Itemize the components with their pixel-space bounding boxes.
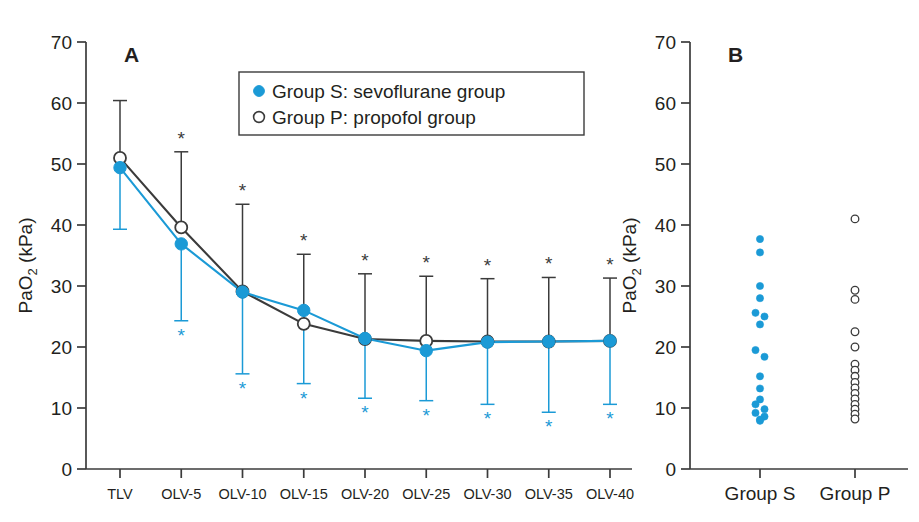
panel-a-x-tick-label: OLV-15 xyxy=(280,486,328,502)
panel-a-errorbar-group-p xyxy=(419,276,433,341)
panel-a-y-tick-label: 20 xyxy=(51,337,72,358)
panel-a-marker-group-s xyxy=(604,335,616,347)
panel-b-point-group-s xyxy=(761,406,768,413)
panel-b-point-group-s xyxy=(756,417,763,424)
panel-b: 706050403020100Group SGroup PPaO2 (kPa)B xyxy=(619,32,908,504)
panel-a-errorbar-group-s xyxy=(481,342,495,404)
panel-b-point-group-p xyxy=(851,296,859,304)
panel-b-y-axis-title: PaO2 (kPa) xyxy=(619,218,644,314)
panel-a-errorbar-group-p xyxy=(358,274,372,339)
panel-b-y-tick-label: 70 xyxy=(655,32,676,53)
panel-a-x-tick-label: OLV-35 xyxy=(525,486,573,502)
panel-b-point-group-s xyxy=(761,353,768,360)
panel-b-letter: B xyxy=(728,43,743,66)
figure-container: 706050403020100TLVOLV-5OLV-10OLV-15OLV-2… xyxy=(0,0,919,522)
legend-marker-group-p xyxy=(254,112,265,123)
panel-a-y-tick-label: 30 xyxy=(51,276,72,297)
panel-b-y-tick-label: 40 xyxy=(655,215,676,236)
panel-a-significance-marker-s: * xyxy=(606,408,614,429)
panel-a-errorbar-group-s xyxy=(542,342,556,413)
legend-label-group-s: Group S: sevoflurane group xyxy=(272,81,505,102)
panel-a-errorbar-group-p xyxy=(481,279,495,342)
panel-a-significance-marker-p: * xyxy=(606,254,614,275)
panel-a-significance-marker-s: * xyxy=(484,408,492,429)
panel-b-y-tick-label: 20 xyxy=(655,337,676,358)
panel-a-marker-group-s xyxy=(298,304,310,316)
panel-b-point-group-s xyxy=(752,401,759,408)
panel-a-marker-group-p xyxy=(175,221,187,233)
panel-a-errorbar-group-p xyxy=(174,152,188,228)
panel-a-errorbar-group-p xyxy=(542,277,556,341)
panel-a-x-tick-label: OLV-25 xyxy=(402,486,450,502)
panel-a-x-tick-label: OLV-30 xyxy=(463,486,511,502)
panel-b-y-tick-label: 30 xyxy=(655,276,676,297)
panel-b-point-group-p xyxy=(851,286,859,294)
panel-a-errorbar-group-s xyxy=(603,341,617,404)
panel-b-point-group-p xyxy=(851,343,859,351)
legend-label-group-p: Group P: propofol group xyxy=(272,107,476,128)
scientific-figure: 706050403020100TLVOLV-5OLV-10OLV-15OLV-2… xyxy=(0,0,919,522)
panel-a-y-tick-label: 10 xyxy=(51,398,72,419)
panel-a-significance-marker-s: * xyxy=(545,416,553,437)
panel-a-significance-marker-p: * xyxy=(545,253,553,274)
panel-a-significance-marker-p: * xyxy=(361,250,369,271)
panel-a-y-tick-label: 0 xyxy=(61,459,72,480)
panel-a-marker-group-s xyxy=(175,238,187,250)
panel-b-point-group-p xyxy=(851,215,859,223)
panel-a-y-tick-label: 50 xyxy=(51,154,72,175)
panel-a-x-tick-label: OLV-20 xyxy=(341,486,389,502)
panel-a-significance-marker-s: * xyxy=(178,325,186,346)
panel-b-point-group-s xyxy=(761,313,768,320)
panel-a-significance-marker-p: * xyxy=(178,128,186,149)
panel-b-point-group-s xyxy=(752,409,759,416)
panel-b-y-tick-label: 10 xyxy=(655,398,676,419)
panel-a-significance-marker-s: * xyxy=(423,405,431,426)
panel-a-significance-marker-p: * xyxy=(484,255,492,276)
panel-a-errorbar-group-p xyxy=(113,101,127,158)
panel-b-point-group-s xyxy=(752,309,759,316)
panel-b-point-group-s xyxy=(756,282,763,289)
legend-marker-group-s xyxy=(254,86,265,97)
panel-a-errorbar-group-s xyxy=(113,168,127,230)
panel-a-significance-marker-s: * xyxy=(300,388,308,409)
panel-a-errorbar-group-s xyxy=(174,244,188,321)
panel-a-significance-marker-p: * xyxy=(239,180,247,201)
panel-a-errorbar-group-p xyxy=(236,204,250,291)
panel-a-marker-group-s xyxy=(420,344,432,356)
panel-a-errorbar-group-s xyxy=(236,292,250,374)
panel-b-y-tick-label: 60 xyxy=(655,93,676,114)
panel-a-significance-marker-s: * xyxy=(361,402,369,423)
panel-a-y-tick-label: 40 xyxy=(51,215,72,236)
panel-b-x-tick-label: Group S xyxy=(725,483,796,504)
panel-a-errorbar-group-p xyxy=(603,278,617,341)
panel-a-x-tick-label: OLV-40 xyxy=(586,486,634,502)
panel-b-point-group-p xyxy=(851,328,859,336)
panel-a-marker-group-s xyxy=(543,335,555,347)
panel-a-errorbar-group-s xyxy=(419,351,433,401)
panel-a-legend: Group S: sevoflurane groupGroup P: propo… xyxy=(239,72,584,135)
panel-a-marker-group-s xyxy=(236,286,248,298)
panel-b-point-group-p xyxy=(851,415,859,423)
panel-b-x-tick-label: Group P xyxy=(820,483,891,504)
panel-a-marker-group-s xyxy=(114,161,126,173)
panel-a-letter: A xyxy=(124,43,139,66)
panel-a-significance-marker-p: * xyxy=(300,230,308,251)
panel-b-point-group-s xyxy=(752,346,759,353)
panel-b-y-tick-label: 50 xyxy=(655,154,676,175)
panel-b-point-group-s xyxy=(756,249,763,256)
panel-b-point-group-s xyxy=(756,385,763,392)
panel-a-x-tick-label: OLV-10 xyxy=(218,486,266,502)
panel-a-errorbar-group-s xyxy=(358,338,372,398)
panel-a-x-tick-label: TLV xyxy=(107,486,133,502)
panel-b-point-group-s xyxy=(756,235,763,242)
panel-b-point-group-s xyxy=(756,295,763,302)
panel-a-marker-group-s xyxy=(481,336,493,348)
panel-a-y-tick-label: 70 xyxy=(51,32,72,53)
panel-a-significance-marker-p: * xyxy=(423,252,431,273)
panel-b-point-group-s xyxy=(756,373,763,380)
panel-a-significance-marker-s: * xyxy=(239,378,247,399)
panel-a-y-tick-label: 60 xyxy=(51,93,72,114)
panel-a-marker-group-p xyxy=(298,318,310,330)
panel-b-y-tick-label: 0 xyxy=(665,459,676,480)
panel-a-y-axis-title: PaO2 (kPa) xyxy=(15,218,40,314)
